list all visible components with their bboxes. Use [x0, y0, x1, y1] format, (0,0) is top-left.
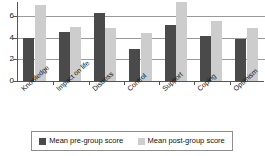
chart-legend: Mean pre-group scoreMean post-group scor… — [31, 131, 233, 151]
y-tick-mark — [13, 16, 17, 17]
legend-label: Mean post-group score — [148, 137, 225, 145]
y-axis: 0246 — [0, 0, 14, 84]
y-tick-mark — [13, 81, 17, 82]
legend-item: Mean post-group score — [138, 137, 225, 145]
legend-swatch — [138, 138, 145, 145]
x-axis-category-labels: KnowledgeImpact on lifeDistressControlSu… — [0, 84, 265, 126]
legend-item: Mean pre-group score — [39, 137, 123, 145]
legend-swatch — [39, 138, 46, 145]
y-tick-mark — [13, 38, 17, 39]
y-tick-mark — [13, 59, 17, 60]
legend-label: Mean pre-group score — [49, 137, 123, 145]
bars-layer — [18, 0, 265, 82]
bar — [94, 13, 105, 81]
bar — [176, 2, 187, 81]
legend-items: Mean pre-group scoreMean post-group scor… — [32, 132, 232, 150]
bar — [165, 25, 176, 81]
bar-chart: 0246 KnowledgeImpact on lifeDistressCont… — [0, 0, 265, 156]
